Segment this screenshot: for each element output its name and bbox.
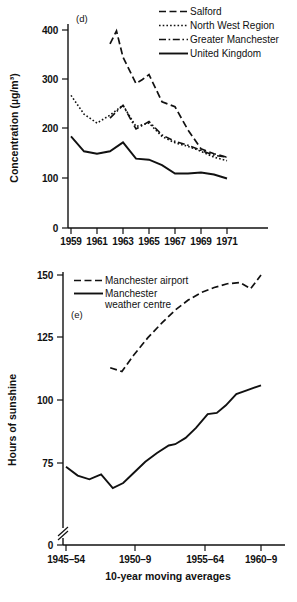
panel-e-y-ticks bbox=[57, 275, 63, 545]
panel-d-x-tick-labels: 1959 1961 1963 1965 1967 1969 1971 bbox=[60, 236, 238, 247]
panel-d-ytick-400: 400 bbox=[42, 25, 59, 36]
panel-d-legend-label-united-kingdom: United Kingdom bbox=[190, 48, 261, 59]
panel-d-legend-label-salford: Salford bbox=[190, 6, 222, 17]
panel-d-legend-item-salford: Salford bbox=[159, 6, 222, 17]
panel-d-xtick-1961: 1961 bbox=[86, 236, 108, 247]
panel-d-series-north-west-region bbox=[71, 95, 227, 160]
panel-e-ylabel: Hours of sunshine bbox=[6, 374, 18, 466]
panel-e-tag: (e) bbox=[71, 309, 83, 320]
panel-e-x-tick-labels: 1945–54 1950–9 1955–64 1960–9 bbox=[47, 554, 277, 565]
panel-d-ylabel: Concentration (µg/m³) bbox=[8, 73, 20, 182]
panel-e-xtick-1955-64: 1955–64 bbox=[186, 554, 224, 565]
panel-d-legend-label-north-west-region: North West Region bbox=[190, 20, 274, 31]
panel-e-legend-item-manchester-airport: Manchester airport bbox=[74, 275, 189, 286]
panel-d-ytick-0: 0 bbox=[53, 223, 59, 234]
panel-d-legend-label-greater-manchester: Greater Manchester bbox=[190, 34, 280, 45]
panel-e-series-manchester-weather-centre bbox=[66, 385, 261, 488]
panel-e-x-ticks bbox=[66, 545, 261, 551]
panel-d-x-ticks bbox=[71, 228, 227, 234]
panel-e-ytick-100: 100 bbox=[37, 395, 54, 406]
panel-e-xtick-1950-9: 1950–9 bbox=[119, 554, 152, 565]
panel-e-legend-label-weather-centre: weather centre bbox=[104, 299, 172, 310]
figure-svg: Concentration (µg/m³) (d) 400 300 200 10… bbox=[0, 0, 297, 602]
panel-e-ytick-75: 75 bbox=[42, 458, 53, 469]
panel-d-xtick-1965: 1965 bbox=[138, 236, 160, 247]
panel-e-legend-label-manchester-airport: Manchester airport bbox=[105, 275, 189, 286]
panel-e-xlabel: 10-year moving averages bbox=[105, 570, 231, 582]
panel-d-ytick-300: 300 bbox=[42, 74, 59, 85]
panel-d-xtick-1959: 1959 bbox=[60, 236, 82, 247]
panel-d-legend-item-north-west-region: North West Region bbox=[159, 20, 274, 31]
figure-container: Concentration (µg/m³) (d) 400 300 200 10… bbox=[0, 0, 297, 602]
panel-d-legend-item-united-kingdom: United Kingdom bbox=[159, 48, 261, 59]
panel-d-xtick-1969: 1969 bbox=[190, 236, 212, 247]
panel-e-ytick-0: 0 bbox=[48, 540, 54, 551]
panel-d-series-united-kingdom bbox=[71, 136, 227, 178]
panel-d-xtick-1963: 1963 bbox=[112, 236, 134, 247]
panel-d-chart: Concentration (µg/m³) (d) 400 300 200 10… bbox=[8, 6, 280, 247]
panel-d-legend: Salford North West Region Greater Manche… bbox=[159, 6, 280, 59]
panel-e-legend-item-manchester-weather-centre: Manchester weather centre bbox=[74, 288, 172, 310]
panel-d-xtick-1971: 1971 bbox=[216, 236, 238, 247]
panel-e-y-tick-labels: 150 125 100 75 0 bbox=[37, 270, 54, 551]
panel-e-legend-label-manchester: Manchester bbox=[105, 288, 158, 299]
panel-d-ytick-100: 100 bbox=[42, 173, 59, 184]
panel-e-xtick-1960-9: 1960–9 bbox=[245, 554, 278, 565]
panel-d-legend-item-greater-manchester: Greater Manchester bbox=[159, 34, 280, 45]
panel-d-y-ticks bbox=[62, 30, 68, 228]
panel-e-ytick-125: 125 bbox=[37, 332, 54, 343]
panel-e-chart: Hours of sunshine 10-year moving average… bbox=[6, 270, 285, 583]
panel-e-ytick-150: 150 bbox=[37, 270, 54, 281]
panel-d-xtick-1967: 1967 bbox=[164, 236, 186, 247]
panel-d-y-tick-labels: 400 300 200 100 0 bbox=[42, 25, 59, 234]
panel-d-tag: (d) bbox=[76, 13, 88, 24]
panel-d-ytick-200: 200 bbox=[42, 123, 59, 134]
panel-e-xtick-1945-54: 1945–54 bbox=[47, 554, 85, 565]
panel-e-legend: Manchester airport Manchester weather ce… bbox=[74, 275, 189, 310]
